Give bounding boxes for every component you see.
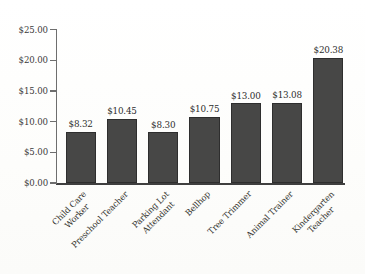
x-axis-category-label: Parking LotAttendant (130, 189, 179, 238)
bar-value-label: $13.08 (272, 90, 302, 100)
bar (107, 119, 137, 183)
y-axis-tick (50, 90, 57, 91)
bar-chart: $25.00$20.00$15.00$10.00$5.00$0.00 $8.32… (0, 0, 365, 274)
plot-area: $25.00$20.00$15.00$10.00$5.00$0.00 $8.32… (0, 0, 365, 274)
bar-value-label: $10.45 (107, 106, 137, 116)
bar (189, 117, 219, 183)
bar (272, 103, 302, 183)
y-axis-tick-label: $20.00 (2, 55, 48, 65)
bar-value-label: $10.75 (190, 104, 220, 114)
y-axis-tick (50, 121, 57, 122)
bar-value-label: $20.38 (314, 45, 344, 55)
x-axis-category-label: Bellhop (183, 189, 212, 218)
x-axis-label-line: Bellhop (183, 189, 212, 218)
x-axis-line (56, 183, 345, 185)
y-axis-line (56, 29, 57, 184)
bar (148, 132, 178, 183)
bar-value-label: $13.00 (231, 91, 261, 101)
y-axis-tick-label: $0.00 (2, 178, 48, 188)
x-axis-category-label: KindergartenTeacher (290, 189, 344, 243)
bar (231, 103, 261, 183)
y-axis-tick (50, 182, 57, 183)
y-axis-tick (50, 60, 57, 61)
y-axis-tick (50, 152, 57, 153)
bar (66, 132, 96, 183)
y-axis-tick-label: $5.00 (2, 147, 48, 157)
bar (313, 58, 343, 183)
y-axis-tick (50, 29, 57, 30)
y-axis-tick-label: $25.00 (2, 25, 48, 35)
bar-value-label: $8.30 (151, 120, 175, 130)
y-axis-tick-label: $15.00 (2, 86, 48, 96)
y-axis-tick-label: $10.00 (2, 117, 48, 127)
bar-value-label: $8.32 (69, 119, 93, 129)
